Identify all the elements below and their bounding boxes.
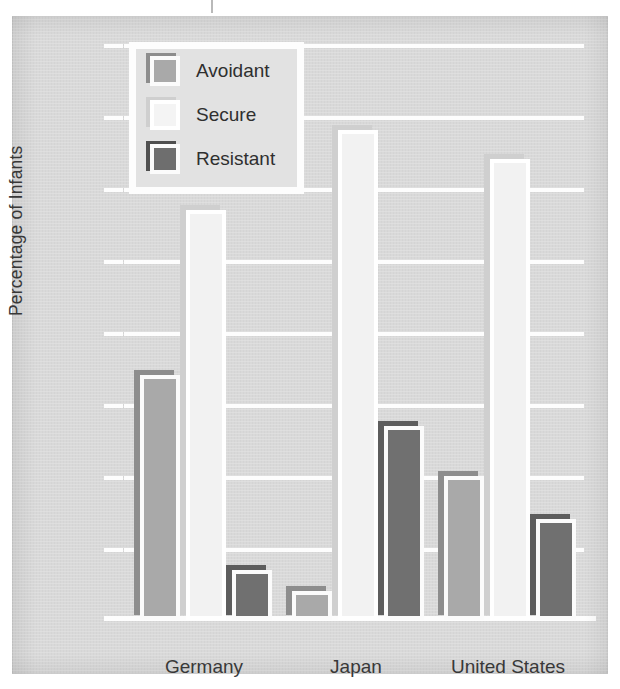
bar-group xyxy=(432,44,584,620)
y-axis-tick xyxy=(104,404,123,408)
x-axis-label: Germany xyxy=(128,656,280,678)
bar-secure-united-states xyxy=(490,159,530,620)
legend-item-resistant[interactable]: Resistant xyxy=(136,137,297,181)
x-axis-label: Japan xyxy=(280,656,432,678)
legend-item-avoidant[interactable]: Avoidant xyxy=(136,49,297,93)
bar-secure-japan xyxy=(338,130,378,620)
bar-avoidant-united-states xyxy=(444,476,484,620)
y-axis-tick xyxy=(104,188,123,192)
legend-label-secure: Secure xyxy=(196,104,256,126)
figure-page: Percentage of Infants 80706050403020100G… xyxy=(0,0,620,689)
y-axis-tick xyxy=(104,44,123,48)
chart-legend: Avoidant Secure Resistant xyxy=(129,42,304,194)
y-axis-tick xyxy=(104,116,123,120)
x-axis-label: United States xyxy=(432,656,584,678)
y-axis-title: Percentage of Infants xyxy=(6,16,27,316)
y-axis-tick xyxy=(104,332,123,336)
scan-artifact-tick xyxy=(211,0,213,13)
legend-label-avoidant: Avoidant xyxy=(196,60,270,82)
y-axis-tick xyxy=(104,548,123,552)
legend-label-resistant: Resistant xyxy=(196,148,275,170)
y-axis-tick xyxy=(104,476,123,480)
bar-avoidant-japan xyxy=(292,591,332,620)
bar-resistant-united-states xyxy=(536,519,576,620)
legend-item-secure[interactable]: Secure xyxy=(136,93,297,137)
bar-avoidant-germany xyxy=(140,375,180,620)
avoidant-swatch-icon xyxy=(150,56,180,86)
y-axis-tick xyxy=(104,260,123,264)
bar-secure-germany xyxy=(186,210,226,620)
resistant-swatch-icon xyxy=(150,144,180,174)
chart-panel: Percentage of Infants 80706050403020100G… xyxy=(12,16,608,674)
bar-resistant-japan xyxy=(384,426,424,620)
bar-resistant-germany xyxy=(232,570,272,620)
secure-swatch-icon xyxy=(150,100,180,130)
